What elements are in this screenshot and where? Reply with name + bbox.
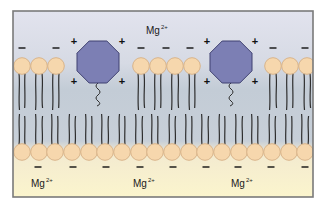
- lipid-head: [64, 144, 81, 161]
- lipid-head: [297, 144, 314, 161]
- mg-ion-label: Mg2+: [231, 177, 253, 189]
- lipid-tail: [308, 116, 309, 145]
- negative-charge-icon: [19, 47, 26, 48]
- lipid-tail: [208, 116, 209, 145]
- lipid-head: [167, 58, 184, 75]
- lipid-tail: [276, 73, 277, 108]
- lipid-head: [147, 144, 164, 161]
- lipid-head: [264, 144, 281, 161]
- ion-charge: 2+: [148, 177, 155, 183]
- lipid-head: [231, 144, 248, 161]
- lipid-head: [31, 58, 48, 75]
- ion-symbol: Mg: [231, 178, 245, 189]
- positive-charge-icon: +: [252, 35, 258, 47]
- lipid-tail: [310, 73, 311, 108]
- lipid-head: [114, 144, 131, 161]
- negative-charge-icon: [137, 166, 144, 167]
- lipid-head: [282, 58, 299, 75]
- ion-charge: 2+: [46, 177, 53, 183]
- lipid-head: [164, 144, 181, 161]
- lipid-head: [14, 58, 31, 75]
- lipid-head: [131, 144, 148, 161]
- octagon-protein-icon: [210, 41, 252, 83]
- lipid-tail: [275, 116, 276, 145]
- negative-charge-icon: [170, 166, 177, 167]
- lipid-head: [197, 144, 214, 161]
- positive-charge-icon: +: [119, 35, 125, 47]
- negative-charge-icon: [268, 166, 275, 167]
- negative-charge-icon: [270, 47, 277, 48]
- lipid-tail: [144, 73, 145, 108]
- background: [13, 11, 313, 197]
- negative-charge-icon: [302, 166, 309, 167]
- negative-charge-icon: [103, 166, 110, 167]
- negative-charge-icon: [203, 166, 210, 167]
- lipid-tail: [142, 116, 143, 145]
- lipid-head: [48, 58, 65, 75]
- mg-ion-label: Mg2+: [31, 177, 53, 189]
- lipid-head: [281, 144, 298, 161]
- positive-charge-icon: +: [204, 35, 210, 47]
- lipid-tail: [42, 73, 43, 108]
- lipid-tail: [75, 116, 76, 145]
- lipid-head: [181, 144, 198, 161]
- membrane-diagram: ++++++++ Mg2+Mg2+Mg2+Mg2+: [0, 0, 325, 211]
- positive-charge-icon: +: [119, 75, 125, 87]
- lipid-head: [214, 144, 231, 161]
- ion-symbol: Mg: [146, 25, 160, 36]
- ion-symbol: Mg: [133, 178, 147, 189]
- negative-charge-icon: [235, 166, 242, 167]
- lipid-head: [47, 144, 64, 161]
- positive-charge-icon: +: [71, 35, 77, 47]
- negative-charge-icon: [53, 47, 60, 48]
- lipid-tail: [178, 73, 179, 108]
- lipid-tail: [175, 116, 176, 145]
- lipid-head: [31, 144, 48, 161]
- mg-ion-label: Mg2+: [133, 177, 155, 189]
- lipid-tail: [242, 116, 243, 145]
- lipid-head: [133, 58, 150, 75]
- lipid-head: [184, 58, 201, 75]
- negative-charge-icon: [70, 166, 77, 167]
- negative-charge-icon: [163, 47, 170, 48]
- lipid-tail: [108, 116, 109, 145]
- positive-charge-icon: +: [204, 75, 210, 87]
- lipid-head: [265, 58, 282, 75]
- positive-charge-icon: +: [252, 75, 258, 87]
- ion-charge: 2+: [161, 24, 168, 30]
- positive-charge-icon: +: [71, 75, 77, 87]
- negative-charge-icon: [35, 166, 42, 167]
- negative-charge-icon: [138, 47, 145, 48]
- lipid-tail: [42, 116, 43, 145]
- lipid-head: [247, 144, 264, 161]
- ion-symbol: Mg: [31, 178, 45, 189]
- mg-ion-label: Mg2+: [146, 24, 168, 36]
- lipid-head: [81, 144, 98, 161]
- ion-charge: 2+: [246, 177, 253, 183]
- negative-charge-icon: [302, 47, 309, 48]
- octagon-protein-icon: [77, 41, 119, 83]
- lipid-head: [14, 144, 31, 161]
- negative-charge-icon: [187, 47, 194, 48]
- lipid-head: [150, 58, 167, 75]
- lipid-head: [97, 144, 114, 161]
